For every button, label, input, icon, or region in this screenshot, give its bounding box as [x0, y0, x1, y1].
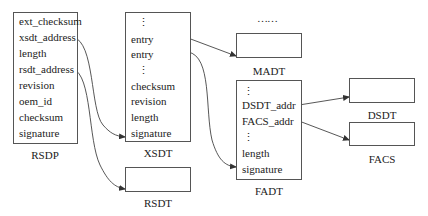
xsdt-field-entry-2: entry: [131, 48, 154, 60]
xsdt-box: ⋮ entry entry ⋮ checksum revision length…: [125, 12, 191, 142]
rsdp-field-length: length: [19, 47, 47, 59]
rsdp-field-ext-checksum: ext_checksum: [19, 15, 82, 27]
madt-box: [236, 33, 302, 58]
rsdp-label: RSDP: [12, 149, 78, 161]
fadt-field-ellipsis-mid: ⋮: [243, 131, 254, 143]
fadt-label: FADT: [236, 185, 302, 197]
fadt-field-signature: signature: [242, 163, 282, 175]
arrow-entry-to-madt: [188, 38, 236, 56]
fadt-field-dsdt-addr: DSDT_addr: [242, 99, 296, 111]
arrow-facs-addr-to-facs: [299, 121, 349, 140]
madt-label: MADT: [236, 65, 302, 77]
more-tables-ellipsis: ……: [257, 12, 277, 24]
rsdp-field-revision: revision: [19, 79, 54, 91]
xsdt-field-checksum: checksum: [131, 80, 175, 92]
xsdt-field-signature: signature: [131, 127, 171, 139]
xsdt-field-entry-1: entry: [131, 33, 154, 45]
rsdp-field-xsdt-address: xsdt_address: [19, 31, 76, 43]
fadt-field-facs-addr: FACS_addr: [242, 115, 294, 127]
dsdt-box: [349, 78, 415, 103]
dsdt-label: DSDT: [349, 109, 415, 121]
arrow-xsdt-address-to-xsdt: [73, 37, 125, 137]
arrow-entry-to-fadt: [188, 52, 236, 167]
rsdp-box: ext_checksum xsdt_address length rsdt_ad…: [13, 12, 78, 144]
arrow-dsdt-addr-to-dsdt: [299, 97, 349, 105]
xsdt-field-revision: revision: [131, 95, 166, 107]
rsdp-field-oem-id: oem_id: [19, 95, 52, 107]
rsdp-field-rsdt-address: rsdt_address: [19, 63, 74, 75]
xsdt-label: XSDT: [125, 147, 191, 159]
rsdt-box: [125, 167, 191, 192]
rsdp-field-signature: signature: [19, 127, 59, 139]
rsdt-label: RSDT: [125, 197, 191, 209]
facs-label: FACS: [349, 153, 415, 165]
fadt-field-ellipsis-top: ⋮: [243, 85, 254, 97]
xsdt-field-ellipsis-mid: ⋮: [138, 64, 149, 76]
xsdt-field-length: length: [131, 111, 159, 123]
rsdp-field-checksum: checksum: [19, 111, 63, 123]
xsdt-field-ellipsis-top: ⋮: [138, 16, 149, 28]
arrow-rsdt-address-to-rsdt: [73, 69, 125, 189]
fadt-box: ⋮ DSDT_addr FACS_addr ⋮ length signature: [236, 80, 302, 180]
fadt-field-length: length: [242, 147, 270, 159]
facs-box: [349, 122, 415, 146]
